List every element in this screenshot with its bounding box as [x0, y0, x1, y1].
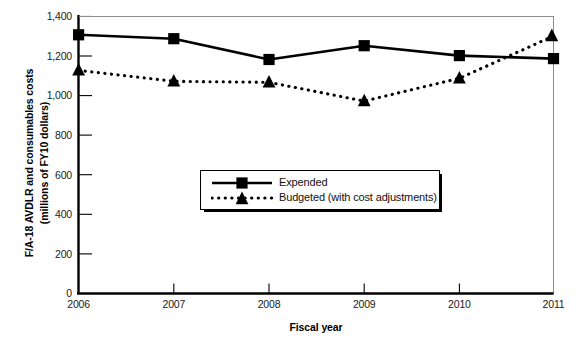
x-tick-label: 2007 [144, 299, 204, 310]
x-axis-tick-labels: 2006 2007 2008 2009 2010 2011 [0, 299, 578, 315]
series-budgeted-line [79, 36, 554, 101]
x-tick-label: 2009 [334, 299, 394, 310]
square-marker-icon [211, 176, 273, 190]
chart-figure: 1,400 1,200 1,000 800 600 400 200 0 2006… [0, 0, 578, 344]
triangle-marker-icon [211, 191, 273, 205]
x-axis-title: Fiscal year [78, 321, 554, 333]
series-expended-markers [73, 29, 559, 65]
x-tick-label: 2011 [524, 299, 578, 310]
y-tick-marks [79, 16, 92, 254]
legend-label-expended: Expended [279, 177, 327, 188]
legend-box: Expended Budgeted (with cost adjustments… [200, 170, 440, 210]
x-tick-label: 2010 [429, 299, 489, 310]
x-tick-marks [174, 284, 460, 293]
legend-item-budgeted[interactable]: Budgeted (with cost adjustments) [211, 190, 437, 205]
y-axis-title-line1: F/A-18 AVDLR and consumables costs [23, 69, 35, 258]
legend-label-budgeted: Budgeted (with cost adjustments) [279, 192, 437, 203]
plot-frame [79, 17, 554, 294]
series-budgeted-markers [72, 29, 558, 107]
x-tick-label: 2008 [239, 299, 299, 310]
y-axis-title: F/A-18 AVDLR and consumables costs(milli… [22, 18, 56, 308]
chart-legend: Expended Budgeted (with cost adjustments… [200, 170, 442, 212]
x-tick-label: 2006 [49, 299, 109, 310]
series-expended-line [79, 35, 554, 60]
y-axis-title-line2: (millions of FY10 dollars) [38, 102, 50, 224]
legend-item-expended[interactable]: Expended [211, 175, 327, 190]
